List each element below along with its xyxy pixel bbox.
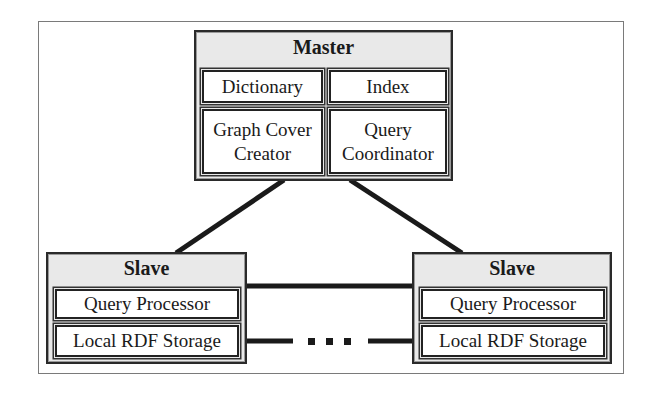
query-coordinator-label-line1: Query (364, 118, 411, 142)
slave-storage-ellipsis-link (247, 338, 412, 345)
query-processor-label-left: Query Processor (84, 292, 210, 316)
query-coordinator-label-line2: Coordinator (342, 142, 434, 166)
graph-cover-creator-label-line2: Creator (234, 142, 291, 166)
master-to-right-slave-link (350, 180, 462, 253)
master-to-left-slave-link (176, 180, 284, 253)
local-rdf-storage-component-right: Local RDF Storage (421, 325, 605, 357)
query-processor-label-right: Query Processor (450, 292, 576, 316)
graph-cover-creator-component: Graph Cover Creator (202, 109, 323, 174)
local-rdf-storage-label-left: Local RDF Storage (73, 329, 221, 353)
query-processor-component-left: Query Processor (55, 289, 239, 319)
dictionary-component: Dictionary (202, 70, 323, 103)
index-label: Index (366, 75, 409, 99)
local-rdf-storage-component-left: Local RDF Storage (55, 325, 239, 357)
master-node: Master Dictionary Index Graph Cover Crea… (194, 30, 453, 181)
graph-cover-creator-label-line1: Graph Cover (213, 118, 312, 142)
local-rdf-storage-label-right: Local RDF Storage (439, 329, 587, 353)
dictionary-label: Dictionary (222, 75, 303, 99)
slave-left-title: Slave (48, 257, 245, 280)
query-coordinator-component: Query Coordinator (329, 109, 447, 174)
slave-right-title: Slave (414, 257, 610, 280)
master-title: Master (196, 36, 451, 59)
index-component: Index (329, 70, 447, 103)
slave-node-left: Slave Query Processor Local RDF Storage (46, 252, 247, 364)
slave-node-right: Slave Query Processor Local RDF Storage (412, 252, 612, 364)
query-processor-component-right: Query Processor (421, 289, 605, 319)
